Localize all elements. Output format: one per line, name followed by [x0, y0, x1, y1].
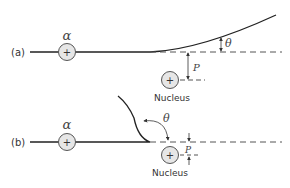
nucleus-a: +	[162, 72, 179, 89]
trajectory-b	[30, 96, 150, 142]
alpha-symbol-a: α	[63, 28, 72, 43]
plus-icon: +	[166, 75, 174, 86]
theta-label-b: θ	[163, 112, 170, 125]
nucleus-b: +	[162, 147, 179, 164]
nucleus-label-b: Nucleus	[152, 168, 188, 178]
impact-label-b: P	[184, 145, 192, 155]
plus-icon: +	[63, 47, 71, 58]
alpha-symbol-b: α	[63, 117, 72, 132]
rutherford-scattering-diagram: (a) + α θ P + Nucleus (b) +	[0, 0, 290, 188]
panel-a-label: (a)	[11, 47, 25, 58]
theta-label-a: θ	[225, 37, 232, 50]
alpha-particle-b: +	[59, 134, 76, 151]
plus-icon: +	[166, 150, 174, 161]
impact-label-a: P	[192, 62, 200, 73]
panel-a: (a) + α θ P + Nucleus	[11, 15, 282, 103]
nucleus-label-a: Nucleus	[154, 93, 190, 103]
panel-b-label: (b)	[11, 137, 25, 148]
panel-b: (b) + α θ P + Nucleus	[11, 96, 282, 178]
alpha-particle-a: +	[59, 44, 76, 61]
plus-icon: +	[63, 137, 71, 148]
